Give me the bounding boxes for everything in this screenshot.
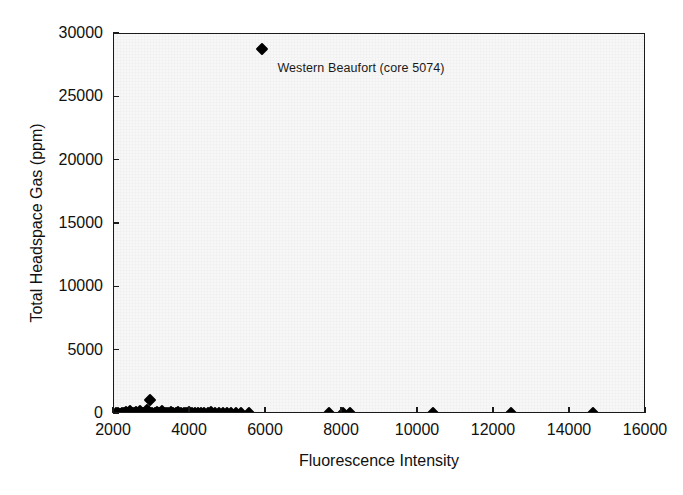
x-tick-label: 8000 — [323, 421, 359, 439]
y-tick-label: 5000 — [0, 341, 103, 359]
y-tick-mark — [113, 159, 119, 161]
y-tick-mark — [113, 286, 119, 288]
y-tick-label: 10000 — [0, 277, 103, 295]
x-tick-label: 16000 — [623, 421, 668, 439]
x-tick-label: 6000 — [247, 421, 283, 439]
x-axis-title: Fluorescence Intensity — [113, 452, 645, 470]
data-point-marker — [256, 43, 269, 56]
data-point-marker — [322, 407, 335, 413]
scatter-plot-figure: Western Beaufort (core 5074) 05000100001… — [0, 0, 683, 495]
y-tick-mark — [113, 222, 119, 224]
x-tick-label: 4000 — [171, 421, 207, 439]
y-tick-label: 25000 — [0, 87, 103, 105]
x-tick-mark — [644, 407, 646, 413]
y-tick-label: 20000 — [0, 151, 103, 169]
y-tick-label: 15000 — [0, 214, 103, 232]
y-tick-mark — [113, 32, 119, 34]
x-tick-label: 2000 — [95, 421, 131, 439]
paper-texture — [114, 34, 644, 412]
data-point-marker — [427, 407, 440, 413]
x-tick-mark — [264, 407, 266, 413]
plot-area: Western Beaufort (core 5074) — [113, 33, 645, 413]
y-tick-mark — [113, 349, 119, 351]
x-tick-mark — [492, 407, 494, 413]
data-point-marker — [243, 407, 256, 413]
y-axis-title: Total Headspace Gas (ppm) — [28, 33, 46, 413]
y-tick-mark — [113, 412, 119, 414]
x-tick-mark — [416, 407, 418, 413]
y-tick-label: 30000 — [0, 24, 103, 42]
data-point-marker — [505, 407, 518, 413]
data-point-marker — [586, 407, 599, 413]
outlier-annotation-label: Western Beaufort (core 5074) — [277, 61, 444, 75]
y-tick-label: 0 — [0, 404, 103, 422]
x-tick-mark — [188, 407, 190, 413]
x-tick-label: 10000 — [395, 421, 440, 439]
x-tick-mark — [112, 407, 114, 413]
x-tick-mark — [568, 407, 570, 413]
x-tick-label: 14000 — [547, 421, 592, 439]
x-tick-label: 12000 — [471, 421, 516, 439]
data-point-marker — [344, 407, 357, 413]
x-tick-mark — [340, 407, 342, 413]
y-tick-mark — [113, 96, 119, 98]
